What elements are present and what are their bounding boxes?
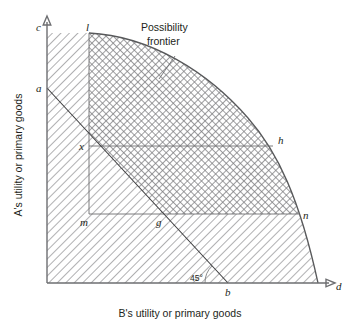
point-label-l: l bbox=[86, 21, 89, 33]
point-label-x: x bbox=[78, 140, 84, 152]
point-label-g: g bbox=[156, 216, 162, 228]
x-axis-label: B's utility or primary goods bbox=[119, 307, 242, 319]
point-label-n: n bbox=[303, 209, 309, 221]
possibility-frontier-note-line2: frontier bbox=[147, 35, 180, 47]
point-label-b: b bbox=[225, 286, 231, 298]
point-label-a: a bbox=[36, 82, 42, 94]
point-label-m: m bbox=[80, 216, 88, 228]
possibility-frontier-note-line1: Possibility bbox=[141, 21, 188, 33]
point-label-d: d bbox=[336, 280, 342, 292]
point-label-h: h bbox=[278, 134, 284, 146]
y-axis-label: A's utility or primary goods bbox=[12, 94, 24, 217]
angle-label-45: 45° bbox=[190, 273, 203, 283]
point-label-c: c bbox=[36, 21, 41, 33]
diagram-canvas: c l a x h m g n b d 45° Possibility fron… bbox=[0, 0, 348, 325]
possibility-frontier-figure: c l a x h m g n b d 45° Possibility fron… bbox=[0, 0, 348, 325]
